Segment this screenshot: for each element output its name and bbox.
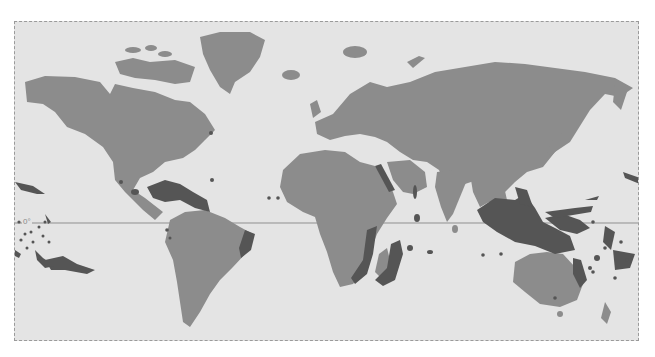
australia (513, 252, 583, 307)
south-america (165, 210, 253, 327)
canadian-arctic (115, 58, 195, 84)
uk (310, 100, 321, 118)
iceland (282, 70, 300, 80)
india (435, 170, 467, 222)
equator-label: 0° (22, 217, 32, 226)
landmasses (25, 32, 633, 327)
map-canvas (15, 22, 639, 341)
greenland (200, 32, 265, 94)
world-map: 0° (14, 21, 639, 341)
